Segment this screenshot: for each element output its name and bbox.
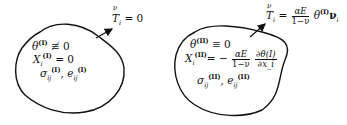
relation: = 0	[55, 53, 74, 65]
superscript: (I)	[320, 8, 329, 16]
superscript: (II)	[208, 73, 220, 81]
relation: ≢ 0	[51, 40, 70, 52]
relation: ≡ 0	[212, 38, 231, 50]
subscript: ij	[233, 81, 237, 89]
superscript: (I)	[38, 39, 47, 47]
superscript: (I)	[43, 52, 52, 60]
traction-symbol: T	[266, 9, 273, 21]
right-normal-arrow	[250, 24, 265, 37]
separator: ,	[60, 67, 63, 79]
traction-subscript: i	[273, 16, 275, 24]
left-normal-arrow	[96, 29, 112, 38]
right-body-force-line: Xi(II)= − αE 1−ν ∂θ(I) ∂x_i	[185, 50, 278, 69]
separator: ,	[221, 74, 224, 86]
gradient-fraction: ∂θ(I) ∂x_i	[255, 50, 277, 69]
superscript: (II)	[196, 37, 208, 45]
denominator: 1−ν	[292, 17, 310, 26]
subscript: i	[336, 16, 338, 24]
left-stress-strain-line: σij(I), eij(I)	[40, 67, 87, 82]
nu-superscript: ν	[267, 3, 271, 10]
traction-symbol: T	[112, 12, 119, 24]
subscript: i	[192, 59, 194, 67]
relation: = −	[207, 52, 228, 64]
denominator: 1−ν	[232, 60, 250, 69]
alpha-e-fraction: αE 1−ν	[232, 50, 250, 69]
superscript: (II)	[238, 73, 250, 81]
traction-value: = 0	[124, 12, 143, 24]
subscript: ij	[73, 74, 77, 82]
left-theta-line: θ(I) ≢ 0	[32, 40, 70, 52]
right-boundary-condition: ν Ti = αE 1−ν θ(I)νi	[266, 7, 339, 26]
subscript: ij	[204, 81, 208, 89]
nu-superscript: ν	[113, 5, 117, 12]
equals: =	[278, 9, 287, 21]
traction-subscript: i	[119, 19, 121, 27]
right-theta-line: θ(II) ≡ 0	[190, 38, 231, 50]
alpha-e-fraction: αE 1−ν	[292, 7, 310, 26]
superscript: (I)	[78, 66, 87, 74]
left-boundary-condition: ν Ti = 0	[112, 13, 143, 27]
right-stress-strain-line: σij(II), eij(II)	[197, 74, 250, 89]
denominator: ∂x_i	[255, 60, 277, 69]
subscript: ij	[47, 74, 51, 82]
superscript: (II)	[195, 51, 207, 59]
